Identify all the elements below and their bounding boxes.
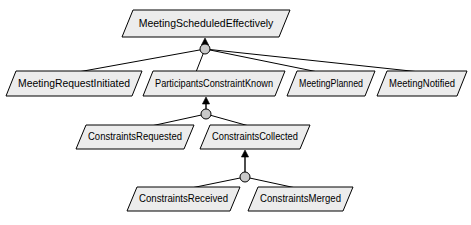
goal-nodes-layer: MeetingScheduledEffectivelyMeetingReques… — [6, 10, 467, 211]
goal-refinement-diagram: MeetingScheduledEffectivelyMeetingReques… — [0, 0, 471, 225]
refinement-arrowhead — [241, 150, 248, 157]
refinement-child-link — [151, 114, 206, 126]
goal-tree-canvas: MeetingScheduledEffectivelyMeetingReques… — [0, 0, 471, 225]
refinement-node-circle[interactable] — [200, 44, 210, 54]
goal-label: MeetingScheduledEffectively — [139, 17, 274, 29]
refinement-r-participants — [151, 97, 249, 126]
goal-label: ConstraintsRequested — [88, 130, 182, 142]
goal-label: ConstraintsReceived — [139, 192, 228, 204]
refinement-r-collected — [191, 150, 296, 188]
goal-label: MeetingPlanned — [299, 77, 363, 89]
goal-node[interactable]: ConstraintsRequested — [76, 125, 194, 149]
goal-node[interactable]: MeetingNotified — [377, 71, 467, 96]
refinement-child-link — [205, 49, 318, 72]
goal-node[interactable]: ConstraintsCollected — [200, 125, 310, 149]
goal-node[interactable]: ParticipantsConstraintKnown — [143, 71, 285, 96]
goal-node[interactable]: MeetingRequestInitiated — [6, 71, 142, 96]
refinement-child-link — [191, 177, 245, 188]
goal-label: MeetingRequestInitiated — [18, 77, 130, 89]
goal-label: MeetingNotified — [389, 77, 455, 89]
refinement-child-link — [78, 49, 205, 72]
refinement-node-circle[interactable] — [240, 172, 250, 182]
refinement-arrowhead — [202, 97, 209, 104]
refinement-r-top — [78, 38, 420, 72]
refinement-child-link — [205, 49, 420, 72]
refinement-node-circle[interactable] — [201, 109, 211, 119]
goal-node[interactable]: MeetingPlanned — [287, 71, 375, 96]
goal-label: ConstraintsMerged — [260, 192, 341, 204]
goal-label: ParticipantsConstraintKnown — [155, 77, 273, 89]
refinement-child-link — [245, 177, 296, 188]
goal-node[interactable]: ConstraintsReceived — [127, 187, 240, 211]
goal-node[interactable]: ConstraintsMerged — [248, 187, 353, 211]
goal-node[interactable]: MeetingScheduledEffectively — [122, 10, 290, 37]
goal-label: ConstraintsCollected — [212, 130, 298, 142]
refinement-links-layer — [78, 38, 420, 188]
refinement-child-link — [206, 114, 249, 126]
